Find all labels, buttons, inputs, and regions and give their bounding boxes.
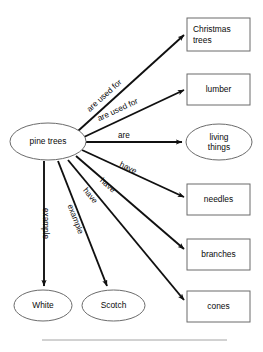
node-living-things[interactable]	[186, 124, 252, 160]
node-needles[interactable]	[187, 184, 250, 215]
node-branches[interactable]	[187, 239, 250, 270]
node-pine-trees[interactable]	[10, 123, 86, 160]
node-white[interactable]	[14, 290, 72, 321]
edge-christmas-trees	[78, 35, 184, 131]
nodes-layer	[10, 18, 252, 322]
node-christmas-trees[interactable]	[187, 18, 250, 51]
node-lumber[interactable]	[187, 74, 250, 105]
edge-scotch	[58, 161, 107, 286]
edges-layer	[44, 35, 184, 300]
node-cones[interactable]	[187, 291, 250, 322]
edge-lumber	[84, 90, 184, 137]
concept-map-graphics	[0, 0, 263, 352]
node-scotch[interactable]	[82, 290, 145, 321]
concept-map-canvas: pine treesChristmas treeslumberliving th…	[0, 0, 263, 352]
